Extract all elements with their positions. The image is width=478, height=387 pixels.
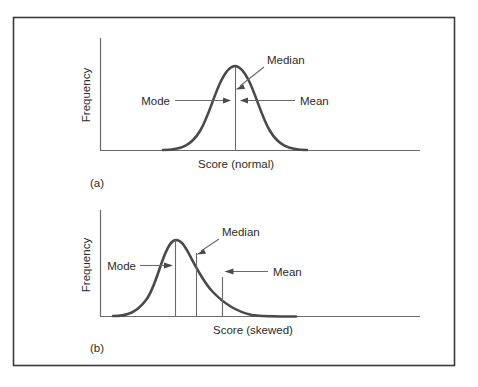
panel-a-mode-arrowhead (223, 98, 231, 104)
panel-a-mean-arrowhead (240, 98, 248, 104)
panel-a: Mode Median Mean Score (normal) Frequenc… (80, 38, 420, 189)
panel-a-y-axis-label: Frequency (80, 68, 92, 123)
panel-b-median-arrowhead (197, 249, 207, 254)
figure-container: Mode Median Mean Score (normal) Frequenc… (0, 0, 478, 387)
panel-b-figure-label: (b) (90, 342, 104, 354)
panel-b-mode-label: Mode (107, 260, 136, 272)
panel-a-figure-label: (a) (90, 177, 104, 189)
panel-a-mean-label: Mean (300, 95, 329, 107)
panel-a-median-leader (240, 67, 264, 86)
panel-b-median-leader (201, 239, 219, 251)
panel-a-median-label: Median (267, 54, 305, 66)
panel-a-x-axis-label: Score (normal) (198, 158, 274, 170)
panel-a-median-arrowhead (236, 84, 246, 89)
panel-b-x-axis-label: Score (skewed) (213, 324, 293, 336)
panel-b-mean-arrowhead (225, 268, 234, 274)
statistics-figure: Mode Median Mean Score (normal) Frequenc… (0, 0, 478, 387)
panel-b-mode-arrowhead (164, 262, 173, 268)
panel-b-y-axis-label: Frequency (80, 238, 92, 293)
panel-a-mode-label: Mode (141, 95, 170, 107)
panel-b-median-label: Median (222, 226, 260, 238)
panel-b: Mode Median Mean Score (skewed) Frequenc… (80, 210, 420, 354)
panel-b-mean-label: Mean (273, 266, 302, 278)
